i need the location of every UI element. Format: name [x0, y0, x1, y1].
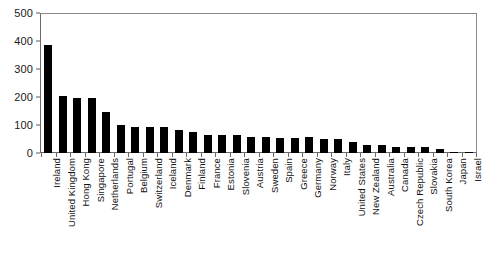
bar — [276, 138, 284, 153]
x-tick-mark — [331, 153, 332, 157]
bar-slot — [462, 13, 477, 153]
x-tick-mark — [56, 153, 57, 157]
x-axis-category-label: United Kingdom — [67, 158, 77, 227]
x-tick-mark — [476, 153, 477, 157]
x-tick-mark — [259, 153, 260, 157]
x-tick-mark — [346, 153, 347, 157]
bar-slot — [128, 13, 143, 153]
x-tick-mark — [462, 153, 463, 157]
x-tick-mark — [41, 153, 42, 157]
bar-slot — [41, 13, 56, 153]
x-axis-category-label: New Zealand — [371, 158, 381, 215]
bar-slot — [302, 13, 317, 153]
bar — [102, 112, 110, 153]
x-tick-mark — [99, 153, 100, 157]
bars-container — [41, 13, 476, 153]
bar-slot — [114, 13, 129, 153]
bar — [262, 137, 270, 153]
x-axis-category-label: France — [212, 158, 222, 188]
bar — [131, 127, 139, 153]
x-axis-category-label: Hong Kong — [81, 158, 91, 206]
bar-slot — [259, 13, 274, 153]
x-axis-category-label: Greece — [299, 158, 309, 190]
bar — [146, 127, 154, 153]
bar-slot — [317, 13, 332, 153]
bar-slot — [70, 13, 85, 153]
x-tick-mark — [360, 153, 361, 157]
x-axis-ticks — [41, 153, 476, 157]
x-tick-mark — [215, 153, 216, 157]
x-tick-mark — [172, 153, 173, 157]
x-axis-category-label: Spain — [284, 158, 294, 183]
bar-slot — [404, 13, 419, 153]
x-axis-category-label: Norway — [328, 158, 338, 191]
x-tick-mark — [70, 153, 71, 157]
bar-slot — [143, 13, 158, 153]
bar — [334, 139, 342, 153]
bar — [59, 96, 67, 153]
bar — [204, 135, 212, 153]
x-tick-mark — [404, 153, 405, 157]
bar-slot — [230, 13, 245, 153]
x-axis-category-label: Singapore — [96, 158, 106, 202]
x-tick-mark — [201, 153, 202, 157]
bar-slot — [375, 13, 390, 153]
x-axis-category-label: Sweden — [270, 158, 280, 193]
x-tick-mark — [288, 153, 289, 157]
x-axis-category-label: Canada — [400, 158, 410, 192]
x-axis-category-label: Israel — [473, 158, 483, 182]
bar — [378, 145, 386, 153]
bar — [117, 125, 125, 153]
x-axis-category-label: South Korea — [444, 158, 454, 212]
x-axis-category-label: Denmark — [183, 158, 193, 197]
x-tick-mark — [317, 153, 318, 157]
x-axis-category-label: Germany — [313, 158, 323, 198]
x-axis-category-label: Estonia — [226, 158, 236, 190]
x-tick-mark — [157, 153, 158, 157]
bar-slot — [346, 13, 361, 153]
x-axis-category-label: Iceland — [168, 158, 178, 189]
y-tick-label: 0 — [27, 148, 33, 159]
x-tick-mark — [244, 153, 245, 157]
bar — [160, 127, 168, 153]
y-tick-label: 500 — [14, 8, 33, 19]
bar-slot — [85, 13, 100, 153]
y-tick-label: 300 — [14, 64, 33, 75]
x-axis-category-label: Australia — [386, 158, 396, 196]
bar-slot — [56, 13, 71, 153]
x-axis-category-label: Ireland — [52, 158, 62, 188]
y-axis: 0100200300400500 — [0, 0, 40, 254]
bar-chart: 0100200300400500 IrelandUnited KingdomHo… — [0, 0, 496, 254]
bar — [218, 135, 226, 153]
y-tick-label: 400 — [14, 36, 33, 47]
bar-slot — [447, 13, 462, 153]
y-tick-label: 100 — [14, 120, 33, 131]
bar — [320, 139, 328, 153]
bar-slot — [331, 13, 346, 153]
bar — [363, 145, 371, 153]
bar — [73, 98, 81, 153]
bar — [247, 137, 255, 153]
x-axis-category-label: Japan — [458, 158, 468, 184]
bar — [175, 130, 183, 153]
bar-slot — [201, 13, 216, 153]
x-axis-category-label: Switzerland — [154, 158, 164, 208]
bar-slot — [273, 13, 288, 153]
bar-slot — [215, 13, 230, 153]
x-tick-mark — [389, 153, 390, 157]
bar — [305, 137, 313, 153]
bar-slot — [360, 13, 375, 153]
bar-slot — [99, 13, 114, 153]
bar-slot — [389, 13, 404, 153]
x-axis-category-label: Slovakia — [429, 158, 439, 195]
x-axis-labels: IrelandUnited KingdomHong KongSingaporeN… — [41, 158, 476, 254]
bar — [233, 135, 241, 153]
x-axis-category-label: Finland — [197, 158, 207, 190]
bar — [349, 142, 357, 153]
x-tick-mark — [186, 153, 187, 157]
x-axis-category-label: Czech Republic — [415, 158, 425, 226]
x-axis-category-label: Italy — [342, 158, 352, 176]
bar — [189, 132, 197, 153]
x-tick-mark — [128, 153, 129, 157]
x-tick-mark — [273, 153, 274, 157]
